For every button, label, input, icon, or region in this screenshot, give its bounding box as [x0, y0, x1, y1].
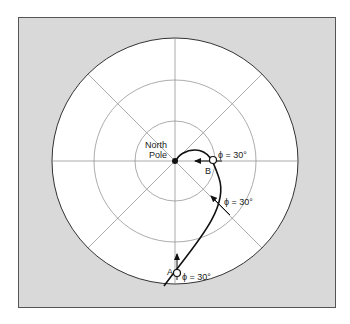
point-a-label: A [167, 267, 173, 277]
point-b-marker [210, 157, 217, 164]
angle-a-label: ϕ = 30° [182, 272, 211, 282]
point-b-label: B [205, 166, 211, 176]
north-pole-label-line2: Pole [149, 150, 167, 160]
point-a-marker [174, 270, 181, 277]
angle-mid-label: ϕ = 30° [224, 197, 253, 207]
north-pole-dot [172, 158, 178, 164]
angle-b-label: ϕ = 30° [218, 150, 247, 160]
north-pole-label-line1: North [145, 140, 167, 150]
polar-diagram: North Pole B ϕ = 30° ϕ = 30° A ϕ = 30° [0, 0, 350, 324]
